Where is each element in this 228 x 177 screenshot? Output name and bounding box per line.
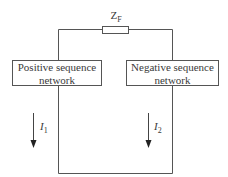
current-i1-subscript: 1 [44,126,48,135]
negative-network-line2: network [127,74,218,87]
negative-sequence-network-label: Negative sequence network [127,61,218,86]
current-i2-subscript: 2 [158,126,162,135]
positive-network-line2: network [13,74,101,87]
impedance-label: ZF [104,9,128,26]
positive-sequence-network-label: Positive sequence network [13,61,101,86]
negative-network-line1: Negative sequence [127,61,218,74]
current-i2-label: I2 [154,120,162,135]
impedance-subscript: F [117,15,121,24]
current-i2-arrow-icon [146,113,152,148]
positive-network-line1: Positive sequence [13,61,101,74]
current-i1-label: I1 [40,120,48,135]
circuit-diagram [0,0,228,177]
current-i1-arrow-icon [31,113,37,148]
impedance-zf-resistor [103,27,129,34]
